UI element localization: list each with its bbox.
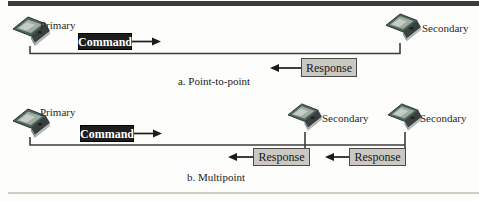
p2p-primary-label: Primary — [40, 20, 75, 31]
mp-command-arrow — [134, 130, 162, 138]
p2p-secondary-label: Secondary — [422, 23, 468, 34]
mp-primary-label: Primary — [40, 107, 75, 118]
p2p-secondary-laptop-icon — [386, 14, 421, 41]
mp-caption: b. Multipoint — [161, 172, 271, 183]
mp-response2-box: Response — [349, 148, 406, 166]
p2p-command-arrow — [132, 38, 161, 46]
figure-canvas: Primary Secondary Command Response a. Po… — [0, 0, 479, 201]
mp-response1-box: Response — [253, 148, 310, 166]
mp-secondary2-laptop-icon — [388, 104, 422, 131]
mp-secondary1-label: Secondary — [322, 113, 368, 124]
p2p-response-box: Response — [301, 58, 357, 77]
mp-command-box: Command — [80, 125, 134, 142]
mp-response1-arrow — [228, 153, 253, 161]
p2p-command-box: Command — [78, 33, 132, 50]
mp-secondary2-label: Secondary — [420, 113, 466, 124]
mp-secondary1-laptop-icon — [288, 104, 322, 131]
p2p-caption: a. Point-to-point — [159, 76, 269, 87]
mp-response2-arrow — [325, 153, 349, 161]
p2p-response-arrow — [270, 64, 301, 72]
